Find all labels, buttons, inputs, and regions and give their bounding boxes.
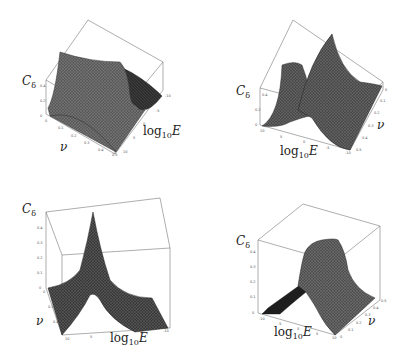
y-tick: 10 xyxy=(123,150,127,154)
z-tick: 0 xyxy=(252,311,254,315)
x-tick: 0.4 xyxy=(98,148,104,152)
y-tick: 0.4 xyxy=(53,320,59,324)
x-tick: 5 xyxy=(90,335,92,339)
x-tick: 0 xyxy=(115,333,117,337)
x-tick: 0 xyxy=(303,140,305,144)
y-tick: 0.3 xyxy=(365,313,371,317)
y-axis-label: ν xyxy=(377,118,384,132)
x-tick: 10 xyxy=(332,336,336,340)
z-tick: 0.2 xyxy=(250,280,256,284)
z-tick: 0.2 xyxy=(40,99,46,103)
y-axis-label: log10E xyxy=(143,124,181,140)
x-tick: -10 xyxy=(345,151,351,155)
y-tick: 5 xyxy=(133,136,135,140)
x-tick: 0 xyxy=(45,119,47,123)
y-tick: 0.2 xyxy=(356,321,362,325)
x-tick: 0.5 xyxy=(112,153,118,157)
y-tick: -10 xyxy=(165,94,171,98)
x-tick: 0.3 xyxy=(84,141,90,145)
y-tick: 0 xyxy=(143,122,145,126)
x-tick: 5 xyxy=(280,135,282,139)
x-tick: -5 xyxy=(278,322,282,326)
y-tick: 0.4 xyxy=(373,306,379,310)
z-axis-label: Cδ xyxy=(236,234,250,250)
y-tick: -5 xyxy=(156,109,160,113)
x-tick: 10 xyxy=(65,337,69,341)
z-tick: 0.2 xyxy=(255,108,261,112)
x-axis-label: ν xyxy=(60,140,67,154)
z-tick: 0.3 xyxy=(37,241,43,245)
z-tick: 0.4 xyxy=(37,226,43,230)
surface-plot-bottom-right: Cδ log10E ν 0 0.1 0.2 0.3 0.4 -10 -5 0 5… xyxy=(210,180,419,359)
y-tick: 0.1 xyxy=(348,328,354,332)
z-tick: 0.2 xyxy=(37,256,43,260)
x-tick: -5 xyxy=(140,331,144,335)
x-tick: 10 xyxy=(260,129,264,133)
y-tick: 0.1 xyxy=(380,99,386,103)
z-tick: 0.3 xyxy=(250,265,256,269)
surface-plot-bottom-left: Cδ log10E ν 0 0.1 0.2 0.3 0.4 10 5 0 -5 … xyxy=(0,180,209,359)
z-tick: 0 xyxy=(40,114,42,118)
y-tick: 0.3 xyxy=(368,124,374,128)
z-tick: 0.4 xyxy=(40,84,46,88)
surface-plot-top-left: Cδ ν log10E 0 0.2 0.4 0 0.1 0.2 0.3 0.4 … xyxy=(0,0,209,179)
x-tick: -10 xyxy=(259,317,265,321)
z-axis-label: Cδ xyxy=(22,74,36,90)
z-axis-label: Cδ xyxy=(236,84,250,100)
y-tick: 0 xyxy=(385,88,387,92)
z-tick: 0.4 xyxy=(250,250,256,254)
y-tick: 0.4 xyxy=(362,136,368,140)
z-tick: 0.4 xyxy=(262,93,268,97)
z-tick: 0.1 xyxy=(250,295,256,299)
y-tick: 0.5 xyxy=(381,299,387,303)
x-axis-label: log10E xyxy=(280,144,318,160)
z-axis-label: Cδ xyxy=(22,202,36,218)
z-tick: 0 xyxy=(255,123,257,127)
x-tick: -5 xyxy=(326,146,330,150)
y-tick: 0.5 xyxy=(356,148,362,152)
x-tick: 0.2 xyxy=(71,134,77,138)
y-tick: 0.2 xyxy=(374,111,380,115)
z-tick: 0 xyxy=(39,286,41,290)
x-tick: 5 xyxy=(316,332,318,336)
surface-plot-top-right: Cδ log10E ν 0 0.2 0.4 10 5 0 -5 -10 0 0.… xyxy=(210,0,419,179)
x-tick: 0.1 xyxy=(58,126,64,130)
y-tick: 0 xyxy=(43,290,45,294)
y-tick: 0 xyxy=(340,335,342,339)
x-tick: -10 xyxy=(163,329,169,333)
x-axis-label: log10E xyxy=(274,325,312,341)
z-tick: 0.1 xyxy=(37,271,43,275)
plot-canvas xyxy=(210,180,419,359)
y-axis-label: ν xyxy=(36,314,43,328)
x-tick: 0 xyxy=(297,327,299,331)
y-tick: 0.2 xyxy=(48,305,54,309)
